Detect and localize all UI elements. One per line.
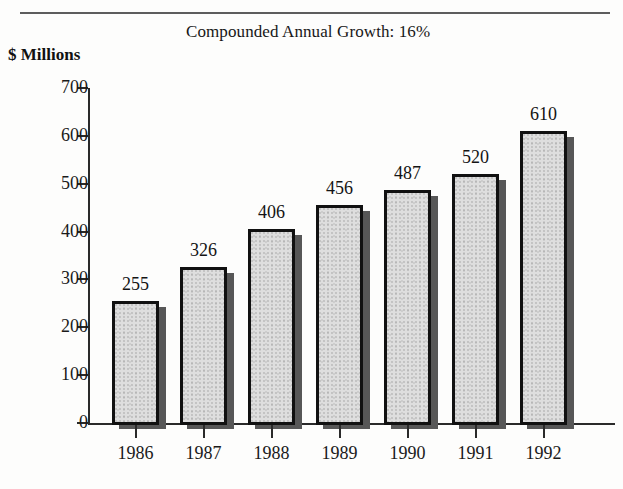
bar-value-label: 326 [169, 240, 239, 261]
bar-1987[interactable] [180, 267, 227, 425]
x-tick-mark [135, 425, 137, 438]
bar-value-label: 487 [373, 163, 443, 184]
y-tick-label: 500 [32, 174, 88, 192]
y-tick-label: 200 [32, 317, 88, 335]
x-tick-mark [203, 425, 205, 438]
x-tick-mark [543, 425, 545, 438]
chart-page: Compounded Annual Growth: 16% $ Millions… [0, 0, 623, 489]
y-tick-label: 300 [32, 269, 88, 287]
x-tick-label-1986: 1986 [101, 443, 171, 464]
bar-value-label: 255 [101, 274, 171, 295]
x-tick-mark [271, 425, 273, 438]
x-tick-label-1991: 1991 [441, 443, 511, 464]
y-tick-label: 100 [32, 365, 88, 383]
bar-1988[interactable] [248, 229, 295, 425]
bar-value-label: 520 [441, 147, 511, 168]
y-tick-label: 600 [32, 126, 88, 144]
x-tick-mark [407, 425, 409, 438]
bar-value-label: 456 [305, 178, 375, 199]
bar-value-label: 610 [509, 104, 579, 125]
x-tick-label-1990: 1990 [373, 443, 443, 464]
bar-1991[interactable] [452, 174, 499, 425]
x-tick-label-1992: 1992 [509, 443, 579, 464]
x-tick-mark [339, 425, 341, 438]
bar-1992[interactable] [520, 131, 567, 425]
y-tick-label: 700 [32, 78, 88, 96]
x-tick-label-1989: 1989 [305, 443, 375, 464]
y-tick-label: 400 [32, 222, 88, 240]
x-tick-label-1988: 1988 [237, 443, 307, 464]
bar-1990[interactable] [384, 190, 431, 425]
x-tick-mark [475, 425, 477, 438]
y-tick-label: 0 [32, 413, 88, 431]
bar-1989[interactable] [316, 205, 363, 425]
y-axis-line [88, 88, 90, 425]
x-tick-label-1987: 1987 [169, 443, 239, 464]
plot-area: 0100200300400500600700 25532640645648752… [0, 0, 623, 489]
bar-1986[interactable] [112, 301, 159, 425]
bar-value-label: 406 [237, 202, 307, 223]
